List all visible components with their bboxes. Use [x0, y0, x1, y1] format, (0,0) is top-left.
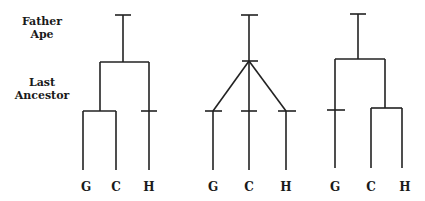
tree3-leaf-h: H: [395, 180, 415, 194]
tree-gc-grouping: [83, 15, 157, 170]
tree-ch-grouping: [327, 14, 402, 168]
tree3-leaf-c: C: [361, 180, 381, 194]
tree-trichotomy: [205, 15, 296, 170]
tree1-leaf-c: C: [106, 180, 126, 194]
tree-lines: [0, 0, 425, 201]
tree2-leaf-h: H: [276, 180, 296, 194]
tree3-leaf-g: G: [325, 180, 345, 194]
tree2-leaf-g: G: [203, 180, 223, 194]
tree2-leaf-c: C: [239, 180, 259, 194]
phylogeny-diagram: Father Ape Last Ancestor: [0, 0, 425, 201]
tree1-leaf-h: H: [139, 180, 159, 194]
tree1-leaf-g: G: [76, 180, 96, 194]
